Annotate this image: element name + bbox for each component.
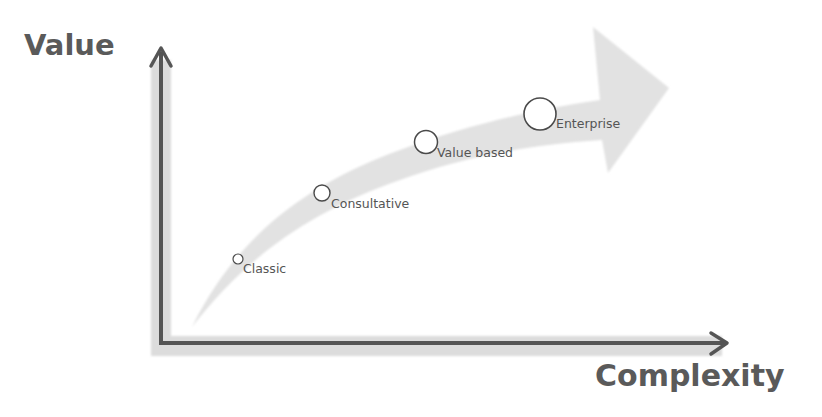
- stage-label-consultative: Consultative: [331, 196, 409, 211]
- stage-marker-enterprise-icon: [524, 98, 556, 130]
- stage-label-enterprise: Enterprise: [556, 116, 620, 131]
- stage-label-value-based: Value based: [437, 145, 513, 160]
- growth-curve-arrow: [192, 27, 669, 327]
- stage-marker-consultative-icon: [314, 185, 330, 201]
- y-axis-title: Value: [24, 28, 115, 62]
- stage-marker-value-based-icon: [415, 131, 438, 154]
- stage-marker-classic-icon: [233, 254, 243, 264]
- stage-label-classic: Classic: [243, 261, 286, 276]
- x-axis-title: Complexity: [595, 358, 785, 393]
- diagram-canvas: [0, 0, 822, 417]
